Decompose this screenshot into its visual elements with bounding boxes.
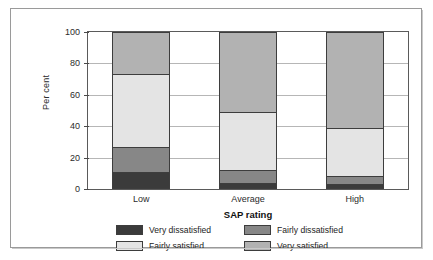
chart-figure: Per cent 020406080100LowAverageHigh SAP … xyxy=(0,0,433,260)
legend-label: Very satisfied xyxy=(277,241,328,251)
y-axis-tick xyxy=(84,32,89,33)
legend-label: Very dissatisfied xyxy=(149,225,211,235)
x-axis-tick-label: High xyxy=(315,194,395,204)
x-axis-label: SAP rating xyxy=(87,209,409,220)
legend-swatch xyxy=(116,241,143,251)
y-axis-tick-label: 20 xyxy=(70,153,80,163)
legend-label: Fairly dissatisfied xyxy=(277,225,343,235)
y-axis-tick-label: 40 xyxy=(70,121,80,131)
figure-frame: Per cent 020406080100LowAverageHigh SAP … xyxy=(10,8,422,248)
bar-segment xyxy=(219,112,277,170)
legend-swatch xyxy=(116,225,143,235)
bar-segment xyxy=(326,128,384,177)
legend-swatch xyxy=(244,241,271,251)
legend-item[interactable]: Very satisfied xyxy=(244,240,328,252)
x-axis-tick-label: Low xyxy=(101,194,181,204)
bar-segment xyxy=(219,32,277,112)
plot-area: 020406080100LowAverageHigh xyxy=(87,31,409,190)
y-axis-tick xyxy=(84,158,89,159)
chart-legend: Very dissatisfiedFairly dissatisfiedFair… xyxy=(116,224,351,254)
y-axis-tick-label: 60 xyxy=(70,90,80,100)
y-axis-tick-label: 0 xyxy=(75,184,80,194)
bar-segment xyxy=(112,147,170,172)
bar-segment xyxy=(326,184,384,189)
bar-segment xyxy=(219,183,277,189)
bar-stack: Low xyxy=(112,32,170,189)
bar-segment xyxy=(326,176,384,184)
legend-item[interactable]: Very dissatisfied xyxy=(116,224,211,236)
bar-segment xyxy=(326,32,384,128)
bar-segment xyxy=(112,32,170,74)
legend-item[interactable]: Fairly dissatisfied xyxy=(244,224,343,236)
bar-segment xyxy=(112,74,170,146)
bar-stack: High xyxy=(326,32,384,189)
bar-stack: Average xyxy=(219,32,277,189)
x-axis-tick-label: Average xyxy=(208,194,288,204)
y-axis-tick-label: 80 xyxy=(70,58,80,68)
y-axis-tick xyxy=(84,63,89,64)
bar-segment xyxy=(219,170,277,183)
legend-item[interactable]: Fairly satisfied xyxy=(116,240,204,252)
y-axis-tick xyxy=(84,95,89,96)
legend-label: Fairly satisfied xyxy=(149,241,204,251)
y-axis-tick xyxy=(84,189,89,190)
bar-segment xyxy=(112,172,170,189)
legend-swatch xyxy=(244,225,271,235)
y-axis-tick xyxy=(84,126,89,127)
y-axis-tick-label: 100 xyxy=(65,27,80,37)
y-axis-label: Per cent xyxy=(41,75,51,110)
